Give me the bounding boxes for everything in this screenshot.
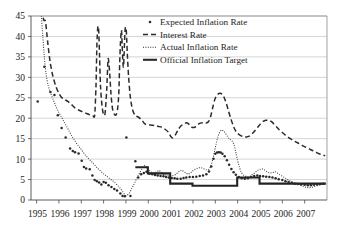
expected-inflation-point bbox=[143, 172, 146, 175]
expected-inflation-point bbox=[57, 114, 60, 117]
legend-item-label: Interest Rate bbox=[160, 30, 207, 40]
expected-inflation-point bbox=[307, 184, 310, 187]
expected-inflation-point bbox=[116, 189, 119, 192]
expected-inflation-point bbox=[185, 176, 188, 179]
expected-inflation-point bbox=[60, 127, 63, 130]
expected-inflation-point bbox=[98, 181, 101, 184]
expected-inflation-point bbox=[230, 168, 233, 171]
expected-inflation-point bbox=[205, 173, 208, 176]
expected-inflation-point bbox=[107, 184, 110, 187]
expected-inflation-point bbox=[100, 183, 103, 186]
expected-inflation-point bbox=[162, 175, 165, 178]
expected-inflation-point bbox=[53, 94, 56, 97]
expected-inflation-point bbox=[80, 160, 83, 163]
expected-inflation-point bbox=[235, 173, 238, 176]
x-tick-label: 2005 bbox=[251, 209, 270, 219]
expected-inflation-point bbox=[238, 176, 241, 179]
expected-inflation-point bbox=[281, 179, 284, 182]
expected-inflation-point bbox=[265, 175, 268, 178]
expected-inflation-point bbox=[278, 178, 281, 181]
expected-inflation-point bbox=[43, 65, 46, 68]
expected-inflation-point bbox=[69, 147, 72, 150]
y-tick-label: 15 bbox=[16, 134, 26, 144]
expected-inflation-point bbox=[96, 180, 99, 183]
y-tick-label: 45 bbox=[16, 11, 26, 21]
expected-inflation-point bbox=[313, 184, 316, 187]
expected-inflation-point bbox=[192, 176, 195, 179]
legend-item-label: Expected Inflation Rate bbox=[160, 17, 247, 27]
expected-inflation-point bbox=[125, 136, 128, 139]
x-tick-label: 1998 bbox=[95, 209, 114, 219]
expected-inflation-point bbox=[284, 180, 287, 183]
expected-inflation-point bbox=[110, 186, 113, 189]
expected-inflation-point bbox=[195, 175, 198, 178]
expected-inflation-point bbox=[212, 157, 215, 160]
expected-inflation-point bbox=[83, 166, 86, 169]
y-tick-label: 30 bbox=[16, 73, 26, 83]
y-tick-label: 10 bbox=[16, 155, 26, 165]
expected-inflation-point bbox=[316, 183, 319, 186]
expected-inflation-point bbox=[226, 159, 229, 162]
x-tick-label: 2001 bbox=[162, 209, 181, 219]
expected-inflation-point bbox=[240, 177, 243, 180]
expected-inflation-point bbox=[244, 177, 247, 180]
expected-inflation-point bbox=[151, 173, 154, 176]
x-tick-label: 2002 bbox=[184, 209, 203, 219]
x-tick-label: 2000 bbox=[140, 209, 159, 219]
expected-inflation-point bbox=[140, 173, 143, 176]
expected-inflation-point bbox=[91, 174, 94, 177]
chart-canvas: 051015202530354045 199519961997199819992… bbox=[0, 0, 341, 232]
expected-inflation-point bbox=[228, 164, 231, 167]
expected-inflation-point bbox=[85, 167, 88, 170]
expected-inflation-point bbox=[72, 150, 75, 153]
expected-inflation-point bbox=[129, 195, 132, 198]
expected-inflation-point bbox=[253, 175, 256, 178]
expected-inflation-point bbox=[148, 173, 151, 176]
expected-inflation-point bbox=[210, 165, 213, 168]
expected-inflation-point bbox=[262, 175, 265, 178]
x-tick-label: 1996 bbox=[50, 209, 69, 219]
expected-inflation-point bbox=[247, 177, 250, 180]
x-tick-label: 1995 bbox=[28, 209, 47, 219]
expected-inflation-point bbox=[319, 183, 322, 186]
legend-item-label: Actual Inflation Rate bbox=[160, 42, 238, 52]
expected-inflation-point bbox=[202, 174, 205, 177]
expected-inflation-point bbox=[77, 152, 80, 155]
expected-inflation-point bbox=[300, 183, 303, 186]
inflation-chart: 051015202530354045 199519961997199819992… bbox=[0, 0, 341, 232]
x-tick-label: 2003 bbox=[207, 209, 226, 219]
expected-inflation-point bbox=[170, 177, 173, 180]
legend-marker-dot-icon bbox=[149, 21, 152, 24]
expected-inflation-point bbox=[168, 176, 171, 179]
expected-inflation-point bbox=[89, 168, 92, 171]
expected-inflation-point bbox=[154, 174, 157, 177]
expected-inflation-point bbox=[74, 151, 77, 154]
expected-inflation-point bbox=[256, 174, 259, 177]
expected-inflation-point bbox=[121, 195, 124, 198]
expected-inflation-point bbox=[173, 177, 176, 180]
expected-inflation-point bbox=[156, 174, 159, 177]
expected-inflation-point bbox=[310, 184, 313, 187]
expected-inflation-point bbox=[274, 177, 277, 180]
expected-inflation-point bbox=[223, 155, 226, 158]
expected-inflation-point bbox=[188, 176, 191, 179]
x-tick-label: 2006 bbox=[274, 209, 293, 219]
expected-inflation-point bbox=[322, 182, 325, 185]
expected-inflation-point bbox=[145, 171, 148, 174]
expected-inflation-point bbox=[297, 183, 300, 186]
expected-inflation-point bbox=[134, 160, 137, 163]
expected-inflation-point bbox=[124, 195, 127, 198]
expected-inflation-point bbox=[290, 182, 293, 185]
expected-inflation-point bbox=[176, 177, 179, 180]
expected-inflation-point bbox=[232, 171, 235, 174]
x-tick-label: 1999 bbox=[117, 209, 136, 219]
expected-inflation-point bbox=[271, 176, 274, 179]
y-tick-label: 0 bbox=[20, 195, 25, 205]
expected-inflation-point bbox=[105, 182, 108, 185]
expected-inflation-point bbox=[287, 181, 290, 184]
x-tick-label: 2004 bbox=[229, 209, 248, 219]
expected-inflation-point bbox=[259, 175, 262, 178]
expected-inflation-point bbox=[208, 170, 211, 173]
expected-inflation-point bbox=[119, 192, 122, 195]
expected-inflation-point bbox=[64, 136, 67, 139]
